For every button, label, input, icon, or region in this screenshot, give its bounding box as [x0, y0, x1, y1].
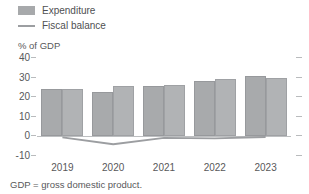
- x-tick-label: 2019: [37, 162, 88, 173]
- plot-area: 403020100-10: [37, 58, 291, 156]
- x-tick-label: 2023: [240, 162, 291, 173]
- legend-item-label: Expenditure: [42, 5, 95, 16]
- y-tick-mark-left: [31, 77, 36, 78]
- y-tick-label: -10: [16, 151, 30, 161]
- chart-container: Expenditure Fiscal balance % of GDP 4030…: [0, 0, 309, 194]
- y-tick-mark-left: [31, 135, 36, 136]
- y-tick-label: 30: [19, 73, 30, 83]
- fiscal-balance-line-layer: [37, 58, 291, 156]
- legend-item-label: Fiscal balance: [42, 20, 106, 31]
- legend-item-expenditure: Expenditure: [18, 3, 198, 17]
- x-tick-label: 2021: [139, 162, 190, 173]
- x-tick-label: 2020: [88, 162, 139, 173]
- legend-item-fiscal-balance: Fiscal balance: [18, 18, 198, 32]
- y-tick-label: 10: [19, 112, 30, 122]
- y-tick-label: 40: [19, 53, 30, 63]
- y-tick-mark-left: [31, 116, 36, 117]
- x-axis-labels: 20192020202120222023: [37, 162, 291, 173]
- chart-footnote: GDP = gross domestic product.: [10, 179, 142, 190]
- y-tick-mark-right: [296, 155, 302, 156]
- y-tick-mark-left: [31, 57, 36, 58]
- y-tick-label: 20: [19, 92, 30, 102]
- y-tick-mark-right: [296, 116, 302, 117]
- legend-swatch-icon: [18, 6, 35, 15]
- y-tick-mark-left: [31, 96, 36, 97]
- y-tick-mark-left: [31, 155, 36, 156]
- y-tick-mark-right: [296, 77, 302, 78]
- y-tick-mark-right: [296, 135, 302, 136]
- y-tick-mark-right: [296, 96, 302, 97]
- fiscal-balance-line: [62, 137, 265, 144]
- legend-line-icon: [18, 21, 35, 30]
- chart-legend: Expenditure Fiscal balance: [18, 3, 198, 33]
- y-tick-mark-right: [296, 57, 302, 58]
- x-tick-label: 2022: [189, 162, 240, 173]
- y-axis-title: % of GDP: [18, 40, 60, 51]
- y-tick-label: 0: [24, 131, 30, 141]
